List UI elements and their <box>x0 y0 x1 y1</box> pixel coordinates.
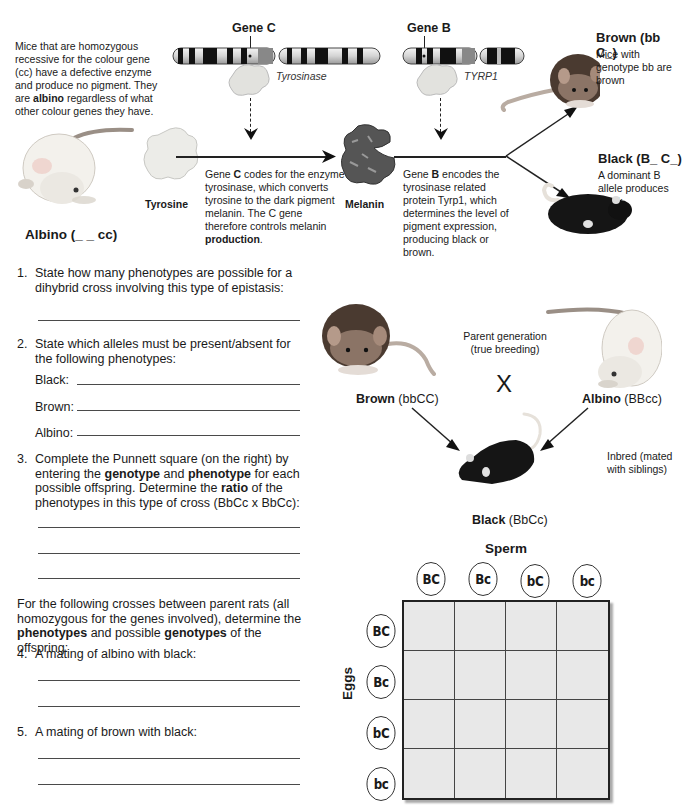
q2-black-label: Black: <box>35 373 69 388</box>
crosses-text: and possible <box>87 626 164 640</box>
question-1-text: State how many phenotypes are possible f… <box>35 266 305 295</box>
pathway-arrow-line <box>176 156 326 158</box>
melanin-label: Melanin <box>345 198 384 211</box>
arrowhead-down-icon <box>244 128 258 140</box>
gene-b-description: Gene B encodes the tyrosinase related pr… <box>403 168 513 259</box>
pathway-branch-line <box>394 156 506 158</box>
question-2-text: State which alleles must be present/abse… <box>35 337 310 366</box>
q3-text: and <box>160 467 188 481</box>
brown-parent-phenotype: Brown <box>356 392 395 406</box>
albino-desc-bold: albino <box>33 92 64 104</box>
punnett-cell-r4c4[interactable] <box>557 749 608 798</box>
answer-line-q3-2[interactable] <box>38 553 300 554</box>
tyrosine-molecule-image <box>140 125 202 185</box>
albino-parent-genotype: (BBcc) <box>621 392 662 406</box>
inbred-line1: Inbred (mated <box>607 450 672 463</box>
chromosome-c <box>172 46 382 66</box>
brown-parent-mouse-image <box>318 300 448 376</box>
inbred-label: Inbred (mated with siblings) <box>607 450 672 476</box>
question-4-number: 4. <box>17 647 27 662</box>
answer-line-q4-2[interactable] <box>38 706 300 707</box>
inbred-line2: with siblings) <box>607 463 672 476</box>
answer-line-q5-1[interactable] <box>38 758 300 759</box>
gene-c-desc-text: . <box>260 233 263 245</box>
answer-line-q5-2[interactable] <box>38 784 300 785</box>
black-phenotype-title: Black (B_ C_) <box>598 151 682 166</box>
gene-c-dashed-arrow <box>250 98 251 132</box>
question-5-number: 5. <box>17 725 27 740</box>
egg-allele-Bc: Bc <box>367 665 396 699</box>
punnett-cell-r1c1[interactable] <box>404 602 455 651</box>
albino-mouse-image <box>14 118 136 214</box>
q2-brown-label: Brown: <box>35 400 74 415</box>
albino-genotype-label: Albino (_ _ cc) <box>25 227 117 242</box>
question-4-text: A mating of albino with black: <box>35 647 196 662</box>
tyrosine-label: Tyrosine <box>145 198 188 211</box>
gene-b-desc-text: Gene <box>403 168 432 180</box>
q3-bold: genotype <box>105 467 161 481</box>
punnett-cell-r4c1[interactable] <box>404 749 455 798</box>
crosses-text: For the following crosses between parent… <box>17 597 301 626</box>
tyrp1-enzyme-image <box>414 62 460 98</box>
sperm-allele-bc: bc <box>573 564 602 598</box>
punnett-cell-r4c3[interactable] <box>506 749 557 798</box>
question-1-number: 1. <box>17 266 27 281</box>
melanin-molecule-image <box>338 122 398 188</box>
sperm-allele-bC: bC <box>521 564 550 598</box>
answer-line-q2-black[interactable] <box>77 384 300 385</box>
punnett-cell-r1c2[interactable] <box>455 602 506 651</box>
gene-b-dashed-arrow <box>440 98 441 132</box>
answer-line-q3-3[interactable] <box>38 578 300 579</box>
sperm-allele-BC: BC <box>417 562 446 596</box>
black-mouse-image <box>528 180 638 240</box>
cross-symbol: X <box>496 370 512 398</box>
gene-b-desc-text: encodes the tyrosinase related protein T… <box>403 168 509 258</box>
black-offspring-mouse-image <box>452 410 562 490</box>
arrowhead-right-icon <box>322 150 336 163</box>
offspring-genotype: (BbCc) <box>505 513 547 527</box>
answer-line-q3-1[interactable] <box>38 527 300 528</box>
crosses-bold: phenotypes <box>17 626 87 640</box>
question-3-number: 3. <box>17 452 27 467</box>
answer-line-q2-brown[interactable] <box>77 410 300 411</box>
egg-allele-bC: bC <box>367 716 396 750</box>
punnett-square <box>402 600 610 800</box>
q3-bold: phenotype <box>188 467 251 481</box>
tyrosinase-enzyme-image <box>226 62 272 98</box>
arrowhead-down-icon <box>434 128 448 140</box>
offspring-label: Black (BbCc) <box>472 513 548 528</box>
punnett-cell-r3c2[interactable] <box>455 700 506 749</box>
punnett-cell-r3c1[interactable] <box>404 700 455 749</box>
answer-line-q2-albino[interactable] <box>77 435 300 436</box>
albino-description: Mice that are homozygous recessive for t… <box>15 40 165 118</box>
tyrosinase-label: Tyrosinase <box>276 70 327 83</box>
egg-allele-bc: bc <box>367 767 396 801</box>
sperm-label: Sperm <box>485 541 527 556</box>
punnett-cell-r4c2[interactable] <box>455 749 506 798</box>
offspring-phenotype: Black <box>472 513 505 527</box>
question-5-text: A mating of brown with black: <box>35 725 197 740</box>
punnett-cell-r2c4[interactable] <box>557 651 608 700</box>
answer-line-q4-1[interactable] <box>38 680 300 681</box>
brown-parent-genotype: (bbCC) <box>395 392 439 406</box>
punnett-cell-r3c4[interactable] <box>557 700 608 749</box>
brown-phenotype-desc: Mice with genotype bb are brown <box>596 48 682 87</box>
question-3-text: Complete the Punnett square (on the righ… <box>35 452 307 510</box>
punnett-cell-r1c4[interactable] <box>557 602 608 651</box>
punnett-cell-r1c3[interactable] <box>506 602 557 651</box>
punnett-cell-r2c3[interactable] <box>506 651 557 700</box>
punnett-cell-r3c3[interactable] <box>506 700 557 749</box>
sperm-allele-Bc: Bc <box>469 562 498 596</box>
gene-c-label: Gene C <box>232 21 276 35</box>
answer-line-q1[interactable] <box>38 320 300 321</box>
punnett-cell-r2c2[interactable] <box>455 651 506 700</box>
gene-b-label: Gene B <box>407 21 451 35</box>
punnett-cell-r2c1[interactable] <box>404 651 455 700</box>
crosses-bold: genotypes <box>164 626 227 640</box>
eggs-label: Eggs <box>340 667 355 700</box>
question-2-number: 2. <box>17 337 27 352</box>
gene-c-description: Gene C codes for the enzyme tyrosinase, … <box>205 168 345 246</box>
gene-c-desc-text: Gene <box>205 168 234 180</box>
q3-bold: ratio <box>221 481 248 495</box>
gene-c-desc-bold: production <box>205 233 260 245</box>
